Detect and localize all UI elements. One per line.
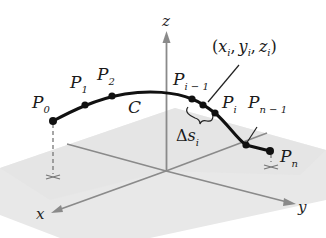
space-curve-diagram: z x y P0 P1 P2 C Pi − 1 Pi Pn − 1 [0,0,326,238]
coordinate-annotation: (xi,yi,zi) [212,37,277,58]
point-p0 [49,117,57,125]
arc-length-label: Δsi [176,126,199,148]
point-pn [266,147,274,155]
point-p1 [81,101,88,108]
z-axis-arrowhead-icon [163,31,171,43]
label-p-i-minus-1: Pi − 1 [172,69,209,92]
point-p2 [108,92,115,99]
point-p-i-minus-1 [188,95,195,102]
label-curve-c: C [128,97,141,117]
point-p-i [199,101,206,108]
label-p-n-minus-1: Pn − 1 [247,92,287,115]
label-p0: P0 [31,92,50,115]
label-p1: P1 [69,72,88,95]
x-axis-label: x [36,205,45,223]
y-axis-label: y [297,198,307,216]
z-axis-label: z [161,12,170,30]
point-p-n-minus-1 [242,141,249,148]
point-p-i-plus-1 [211,109,218,116]
label-p-i: Pi [221,92,237,115]
label-p2: P2 [96,64,115,87]
